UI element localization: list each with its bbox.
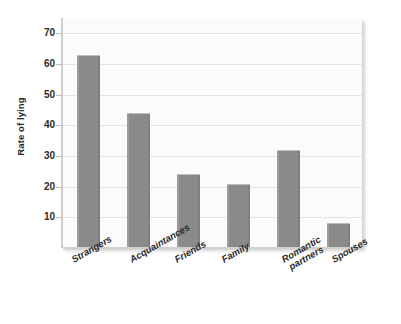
bars-layer [63, 18, 362, 248]
plot-area [61, 18, 362, 248]
bar[interactable] [277, 150, 300, 248]
bar[interactable] [227, 184, 250, 248]
y-axis-tick-label: 10 [33, 212, 55, 222]
bar[interactable] [77, 55, 100, 248]
y-axis-tick-label: 60 [33, 59, 55, 69]
bar-chart-figure: Rate of lying 10203040506070 StrangersAc… [0, 0, 401, 324]
y-axis-tick-label: 50 [33, 90, 55, 100]
y-axis-tick-label: 30 [33, 151, 55, 161]
y-axis-tick-label: 40 [33, 120, 55, 130]
bar[interactable] [127, 113, 150, 248]
y-axis-tick-labels: 10203040506070 [33, 0, 55, 324]
y-axis-tick-label: 20 [33, 182, 55, 192]
y-axis-title: Rate of lying [15, 72, 26, 182]
y-axis-tick-label: 70 [33, 28, 55, 38]
